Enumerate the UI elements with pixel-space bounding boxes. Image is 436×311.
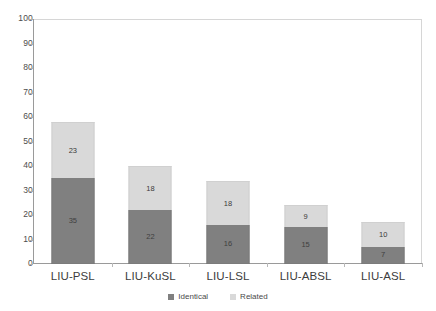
y-axis-tick-mark xyxy=(29,166,33,167)
bar-segment-identical[interactable]: 7 xyxy=(362,247,405,264)
bar-group[interactable]: 1816 xyxy=(189,19,267,264)
x-axis-tick-mark xyxy=(344,263,345,267)
x-axis-category-label: LIU-PSL xyxy=(34,270,112,282)
bar-stack[interactable]: 1816 xyxy=(206,181,249,264)
legend-item[interactable]: Related xyxy=(230,292,268,301)
x-axis-labels: LIU-PSLLIU-KuSLLIU-LSLLIU-ABSLLIU-ASL xyxy=(34,270,422,288)
bar-stack[interactable]: 915 xyxy=(284,205,327,264)
y-axis-tick-label: 50 xyxy=(23,136,33,146)
bar-segment-identical[interactable]: 22 xyxy=(129,210,172,264)
bar-value-label: 10 xyxy=(379,231,387,239)
y-axis-tick-label: 60 xyxy=(23,111,33,121)
bar-segment-related[interactable]: 9 xyxy=(284,205,327,227)
y-axis-tick-label: 90 xyxy=(23,38,33,48)
bar-segment-related[interactable]: 18 xyxy=(129,166,172,210)
y-axis-tick-mark xyxy=(29,215,33,216)
legend-swatch-icon xyxy=(230,294,236,300)
bar-segment-identical[interactable]: 35 xyxy=(51,178,94,264)
y-axis-tick-label: 100 xyxy=(18,13,33,23)
y-axis-tick-label: 70 xyxy=(23,87,33,97)
x-axis-category-label: LIU-ASL xyxy=(344,270,422,282)
x-axis-tick-mark xyxy=(422,263,423,267)
bar-value-label: 23 xyxy=(69,147,77,155)
bars-layer: 233518221816915107 xyxy=(34,19,422,264)
legend-label: Related xyxy=(240,292,268,301)
y-axis-tick-label: 40 xyxy=(23,160,33,170)
bar-segment-related[interactable]: 23 xyxy=(51,122,94,178)
y-axis-tick-mark xyxy=(29,19,33,20)
x-axis-category-label: LIU-LSL xyxy=(189,270,267,282)
y-axis-tick-mark xyxy=(29,68,33,69)
y-axis-tick-label: 0 xyxy=(28,258,33,268)
bar-group[interactable]: 2335 xyxy=(34,19,112,264)
y-axis-tick-mark xyxy=(29,240,33,241)
legend-swatch-icon xyxy=(168,294,174,300)
bar-stack[interactable]: 1822 xyxy=(129,166,172,264)
legend-label: Identical xyxy=(178,292,208,301)
x-axis-tick-mark xyxy=(267,263,268,267)
x-axis-tick-mark xyxy=(112,263,113,267)
stacked-bar-chart: 1009080706050403020100 23351822181691510… xyxy=(0,0,436,311)
bar-group[interactable]: 107 xyxy=(344,19,422,264)
legend-item[interactable]: Identical xyxy=(168,292,208,301)
bar-value-label: 18 xyxy=(146,185,154,193)
y-axis-tick-mark xyxy=(29,142,33,143)
bar-stack[interactable]: 2335 xyxy=(51,122,94,264)
bar-segment-related[interactable]: 18 xyxy=(206,181,249,225)
bar-value-label: 9 xyxy=(304,213,308,221)
y-axis-tick-mark xyxy=(29,44,33,45)
bar-value-label: 35 xyxy=(69,217,77,225)
y-axis-tick-label: 20 xyxy=(23,209,33,219)
y-axis-tick-label: 10 xyxy=(23,234,33,244)
y-axis-tick-mark xyxy=(29,264,33,265)
x-axis-category-label: LIU-ABSL xyxy=(267,270,345,282)
bar-segment-related[interactable]: 10 xyxy=(362,222,405,247)
y-axis-tick-mark xyxy=(29,117,33,118)
bar-value-label: 7 xyxy=(381,251,385,259)
bar-group[interactable]: 915 xyxy=(267,19,345,264)
y-axis-tick-label: 30 xyxy=(23,185,33,195)
bar-segment-identical[interactable]: 16 xyxy=(206,225,249,264)
y-axis-tick-mark xyxy=(29,93,33,94)
x-axis-tick-mark xyxy=(189,263,190,267)
bar-value-label: 15 xyxy=(301,241,309,249)
bar-value-label: 16 xyxy=(224,240,232,248)
chart-legend: IdenticalRelated xyxy=(0,292,436,301)
bar-segment-identical[interactable]: 15 xyxy=(284,227,327,264)
y-axis-tick-label: 80 xyxy=(23,62,33,72)
bar-value-label: 18 xyxy=(224,200,232,208)
y-axis-tick-mark xyxy=(29,191,33,192)
bar-group[interactable]: 1822 xyxy=(112,19,190,264)
bar-value-label: 22 xyxy=(146,233,154,241)
bar-stack[interactable]: 107 xyxy=(362,222,405,264)
x-axis-category-label: LIU-KuSL xyxy=(112,270,190,282)
